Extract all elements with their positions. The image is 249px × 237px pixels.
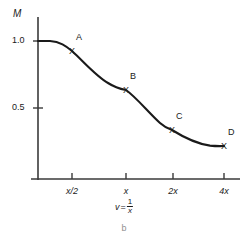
y-tick-label-1-0: 1.0 (12, 36, 25, 45)
x-axis-formula-equals: = (120, 203, 125, 212)
figure-caption: b (121, 224, 126, 233)
x-axis-formula-variable: v (115, 203, 120, 212)
data-point-label-a: A (76, 33, 82, 42)
x-tick-marks (72, 173, 224, 179)
x-axis-title: v = 1 x (115, 199, 133, 216)
y-axis-title: M (13, 9, 21, 19)
x-axis-formula-fraction: 1 x (127, 198, 133, 215)
data-point-marker-b: X (123, 86, 129, 95)
chart-figure: M 1.0 0.5 x/2 x 2x 4x X A X B X C X D v … (0, 0, 249, 237)
data-point-label-d: D (228, 128, 235, 137)
data-point-marker-a: X (69, 47, 75, 56)
data-point-marker-d: X (221, 142, 227, 151)
x-axis-formula-denominator: x (127, 206, 133, 215)
x-tick-label-x: x (124, 187, 129, 196)
data-point-label-b: B (130, 72, 136, 81)
data-point-marker-c: X (169, 126, 175, 135)
x-tick-label-x-over-2: x/2 (66, 187, 78, 196)
data-point-label-c: C (176, 112, 183, 121)
x-axis-formula-numerator: 1 (127, 198, 133, 206)
x-tick-label-4x: 4x (219, 187, 229, 196)
x-tick-label-2x: 2x (168, 187, 178, 196)
decay-curve (38, 41, 224, 146)
y-tick-label-0-5: 0.5 (12, 103, 25, 112)
